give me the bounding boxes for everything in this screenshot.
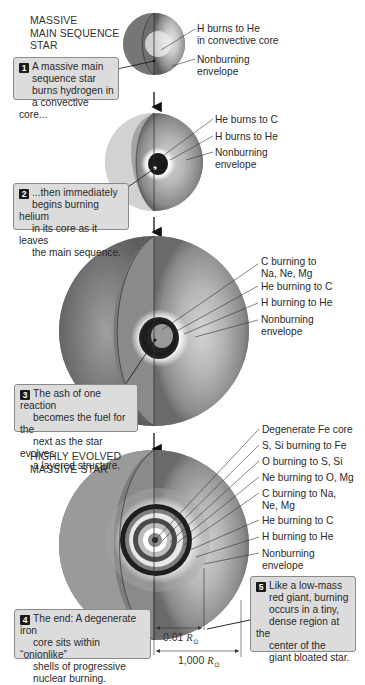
label-line: He burns to C: [215, 114, 278, 126]
label-c-burning-to-na-ne-mg: C burning to Na, Ne, Mg: [261, 256, 317, 280]
callout-line: core sits within “onionlike”: [20, 637, 100, 660]
callout-line: A massive main: [32, 61, 103, 72]
heading-line: STAR: [30, 39, 119, 52]
label-line: Nonburning: [197, 54, 250, 66]
scale-label-core: 0.01 R⊙: [163, 631, 199, 646]
label-h-burning-to-he: H burning to He: [262, 531, 333, 543]
label-line: H burns to He: [215, 131, 278, 143]
callout-line: becomes the fuel for the: [20, 412, 125, 435]
scale-value: 1,000: [178, 654, 204, 666]
scale-label-star: 1,000 R⊙: [178, 654, 220, 669]
callout-5: 5Like a low-mass red giant, burning occu…: [250, 576, 356, 652]
callout-3: 3The ash of one reaction becomes the fue…: [14, 384, 138, 432]
callout-line: The ash of one reaction: [20, 388, 101, 411]
label-h-burns-to-he: H burns to He: [215, 131, 278, 143]
callout-line: dense region at the: [256, 616, 339, 639]
label-c-burning-to-na-ne-mg: C burning to Na, Ne, Mg: [262, 488, 336, 512]
label-ne-burning-to-o-mg: Ne burning to O, Mg: [262, 472, 354, 484]
callout-line: occurs in a tiny,: [256, 604, 339, 615]
star-main-sequence: [117, 13, 195, 75]
callout-4: 4The end: A degenerate iron core sits wi…: [14, 609, 151, 659]
callout-line: the main sequence.: [19, 247, 121, 258]
solar-symbol-icon: ⊙: [193, 638, 199, 645]
label-h-burning-to-he: H burning to He: [261, 297, 332, 309]
label-line: He burning to C: [262, 515, 333, 527]
callout-line: center of the: [256, 640, 326, 651]
label-he-burns-to-c: He burns to C: [215, 114, 278, 126]
label-line: He burning to C: [261, 281, 332, 293]
callout-number-badge: 1: [19, 63, 29, 73]
callout-line: a layered structure.: [20, 460, 120, 471]
label-line: envelope: [262, 560, 315, 572]
label-s-si-burning-to-fe: S, Si burning to Fe: [262, 440, 346, 452]
scale-value: 0.01: [163, 631, 183, 643]
callout-number-badge: 5: [256, 582, 266, 592]
label-line: H burning to He: [261, 297, 332, 309]
callout-line: giant bloated star.: [256, 652, 349, 663]
label-line: H burning to He: [262, 531, 333, 543]
label-line: C burning to: [261, 256, 317, 268]
label-line: envelope: [197, 66, 250, 78]
heading-line: MAIN SEQUENCE: [30, 27, 119, 40]
label-line: envelope: [261, 326, 314, 338]
heading-main-sequence-star: MASSIVE MAIN SEQUENCE STAR: [30, 14, 119, 52]
callout-2: 2...then immediately begins burning heli…: [13, 183, 129, 230]
callout-line: nuclear burning.: [20, 673, 106, 684]
label-line: Ne, Mg: [262, 500, 336, 512]
callout-number-badge: 4: [20, 615, 30, 625]
callout-line: sequence star: [19, 73, 96, 84]
label-line: H burns to He: [197, 23, 279, 35]
label-line: Na, Ne, Mg: [261, 268, 317, 280]
callout-line: Like a low-mass: [269, 580, 342, 591]
callout-line: burns hydrogen in: [19, 85, 114, 96]
label-line: envelope: [215, 159, 268, 171]
label-line: S, Si burning to Fe: [262, 440, 346, 452]
label-line: in convective core: [197, 35, 279, 47]
label-nonburning-envelope: Nonburning envelope: [262, 548, 315, 572]
heading-line: MASSIVE: [30, 14, 119, 27]
callout-number-badge: 3: [20, 390, 30, 400]
label-line: C burning to Na,: [262, 488, 336, 500]
callout-line: ...then immediately: [32, 187, 118, 198]
label-line: Ne burning to O, Mg: [262, 472, 354, 484]
callout-1: 1A massive main sequence star burns hydr…: [13, 57, 119, 100]
label-nonburning-envelope: Nonburning envelope: [197, 54, 250, 78]
label-nonburning-envelope: Nonburning envelope: [215, 147, 268, 171]
label-he-burning-to-c: He burning to C: [261, 281, 332, 293]
label-line: Degenerate Fe core: [262, 424, 353, 436]
label-line: Nonburning: [215, 147, 268, 159]
label-h-burns-to-he-convective: H burns to He in convective core: [197, 23, 279, 47]
label-o-burning-to-s-si: O burning to S, Si: [262, 456, 342, 468]
label-line: Nonburning: [262, 548, 315, 560]
callout-line: begins burning helium: [19, 199, 99, 222]
callout-line: The end: A degenerate iron: [20, 613, 136, 636]
callout-line: shells of progressive: [20, 661, 126, 672]
label-nonburning-envelope: Nonburning envelope: [261, 314, 314, 338]
label-degenerate-fe-core: Degenerate Fe core: [262, 424, 353, 436]
callout-number-badge: 2: [19, 189, 29, 199]
label-line: O burning to S, Si: [262, 456, 342, 468]
label-he-burning-to-c: He burning to C: [262, 515, 333, 527]
solar-symbol-icon: ⊙: [214, 661, 220, 668]
callout-line: red giant, burning: [256, 592, 348, 603]
label-line: Nonburning: [261, 314, 314, 326]
